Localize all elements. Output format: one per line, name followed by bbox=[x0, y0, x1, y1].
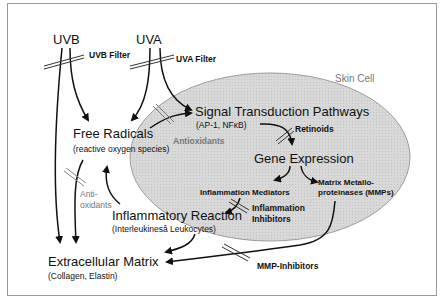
uva-filter-bar bbox=[130, 55, 174, 69]
mmp-inhibitors-label: MMP-Inhibitors bbox=[257, 262, 318, 271]
antioxidants-outside-line1: Anti- bbox=[80, 190, 97, 199]
uvb-label: UVB bbox=[53, 33, 80, 46]
antioxidants-outside-line2: oxidants bbox=[80, 201, 112, 210]
extracellular-matrix-title: Extracellular Matrix bbox=[48, 255, 159, 268]
mmps-label-line1: Matrix Metallo- bbox=[318, 179, 374, 187]
inflammatory-reaction-title: Inflammatory Reaction bbox=[112, 209, 242, 222]
uva-filter-label: UVA Filter bbox=[176, 55, 216, 64]
uvb-filter-bar bbox=[44, 55, 84, 69]
antioxidants-outside-bar bbox=[64, 168, 86, 186]
uva-label: UVA bbox=[136, 33, 162, 46]
signal-transduction-title: Signal Transduction Pathways bbox=[195, 105, 369, 118]
skin-cell-label: Skin Cell bbox=[335, 74, 374, 84]
arrow-uvb-to-ecm bbox=[56, 48, 62, 242]
uvb-filter-label: UVB Filter bbox=[89, 51, 130, 60]
arrow-inflammatory-to-free-radicals bbox=[106, 167, 120, 204]
signal-transduction-subtitle: (AP-1, NFκB) bbox=[196, 121, 247, 130]
inflammatory-reaction-subtitle: (Interleukinesâ Leukocytes) bbox=[112, 225, 216, 234]
inflammation-inhibitors-line2: Inhibitors bbox=[252, 215, 291, 224]
inflammation-inhibitors-line1: Inflammation bbox=[252, 204, 305, 213]
arrow-uva-to-free-radicals bbox=[132, 48, 150, 120]
free-radicals-subtitle: (reactive oxygen species) bbox=[73, 145, 169, 154]
extracellular-matrix-subtitle: (Collagen, Elastin) bbox=[48, 272, 117, 281]
mmps-label-line2: proteinases (MMPs) bbox=[318, 189, 394, 197]
antioxidants-cell-label: Antioxidants bbox=[173, 137, 224, 146]
gene-expression-title: Gene Expression bbox=[254, 152, 354, 165]
arrow-uvb-to-free-radicals bbox=[70, 48, 88, 120]
inflammation-mediators-label: Inflammation Mediators bbox=[200, 189, 290, 197]
arrow-inflammatory-to-ecm bbox=[166, 234, 195, 252]
retinoids-label: Retinoids bbox=[295, 125, 334, 134]
free-radicals-title: Free Radicals bbox=[73, 127, 153, 140]
